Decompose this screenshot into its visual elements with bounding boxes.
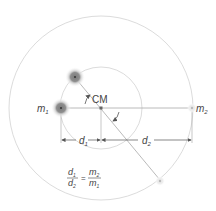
mass-m2-dot [191, 107, 193, 109]
eq-equals: = [81, 174, 86, 183]
cm-marker [100, 107, 103, 110]
m2-label: m2 [196, 103, 208, 115]
eq-rhs-numerator: m2 [89, 167, 100, 178]
rotation-arrow-lower-icon [113, 112, 119, 121]
eq-rhs-denominator: m1 [89, 178, 100, 189]
eq-lhs-denominator: d2 [68, 178, 76, 189]
d2-label: d2 [142, 135, 152, 147]
rotation-arrow-upper-icon [85, 95, 90, 104]
center-of-mass-diagram: CM m1 m2 d1 d2 d1 d2 = m2 m1 [0, 0, 216, 211]
m1-label: m1 [37, 103, 49, 115]
d1-label: d1 [79, 135, 88, 147]
cm-label: CM [92, 94, 108, 105]
mass-m1-dot [60, 107, 62, 109]
ratio-equation: d1 d2 = m2 m1 [67, 167, 101, 189]
mass-m2-rotated-dot [159, 180, 161, 182]
eq-lhs-numerator: d1 [68, 167, 76, 178]
mass-m1-rotated-dot [74, 76, 76, 78]
